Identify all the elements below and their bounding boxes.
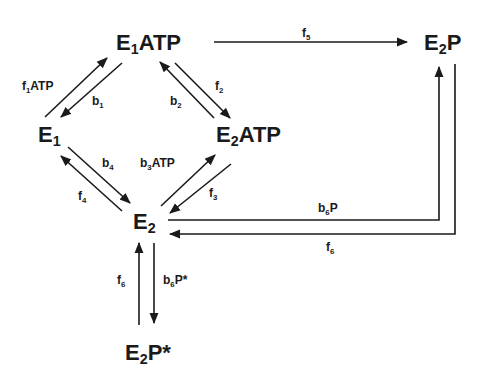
label-f6-right: f6 [326, 240, 335, 256]
node-e2pstar: E2P* [125, 340, 171, 367]
label-f5: f5 [302, 26, 311, 42]
node-e2p: E2P [424, 30, 461, 57]
arrow-f1atp [45, 58, 107, 117]
label-f1atp: f1ATP [22, 79, 53, 95]
label-b6p: b6P [318, 201, 338, 217]
label-b2: b2 [170, 94, 182, 110]
label-b4: b4 [102, 156, 114, 172]
arrow-b1 [61, 63, 122, 117]
node-e1atp: E1ATP [116, 30, 181, 57]
arrow-f6-right [170, 64, 455, 234]
label-b3atp: b3ATP [140, 156, 175, 172]
label-f3: f3 [209, 186, 218, 202]
label-f6-bottom: f6 [117, 273, 126, 289]
label-b1: b1 [92, 94, 104, 110]
node-e1: E1 [38, 122, 61, 149]
node-e2: E2 [133, 209, 156, 236]
arrow-b2 [160, 62, 214, 118]
label-b6pstar: b6P* [163, 273, 188, 289]
node-e2atp: E2ATP [216, 122, 281, 149]
label-f2: f2 [215, 79, 224, 95]
reaction-diagram: E1ATP E2P E1 E2ATP E2 E2P* f1ATP b1 b2 f… [0, 0, 482, 370]
label-f4: f4 [78, 189, 87, 205]
